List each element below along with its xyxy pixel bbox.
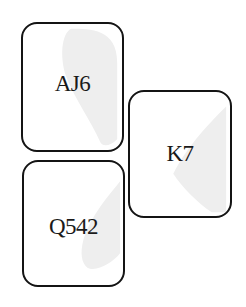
hand-cards-south: Q542 — [49, 214, 98, 240]
hand-card-east: K7 — [128, 90, 232, 218]
hand-cards-north: AJ6 — [55, 71, 91, 97]
hand-card-north: AJ6 — [21, 22, 124, 152]
hand-card-south: Q542 — [22, 160, 125, 287]
hand-cards-east: K7 — [166, 141, 193, 167]
